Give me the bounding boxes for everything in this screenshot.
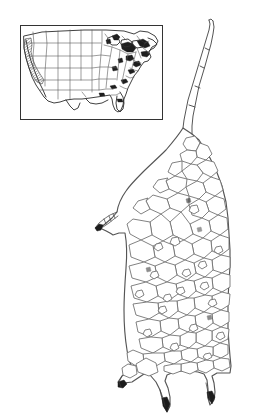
figure-canvas	[0, 0, 262, 420]
leaf-cell-network	[122, 136, 230, 378]
figure-root: Distribution map and leaf areolation Uni…	[0, 0, 262, 420]
leaf-awn	[183, 19, 214, 134]
map-inset	[21, 26, 163, 120]
